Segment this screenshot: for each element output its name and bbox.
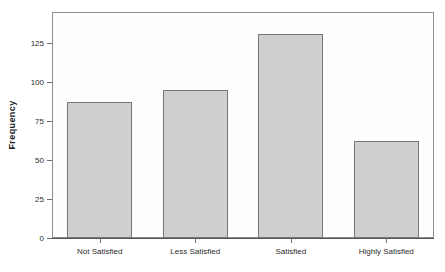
bar: [67, 102, 132, 238]
y-axis-tick-label: 75: [35, 117, 44, 126]
bar: [163, 90, 228, 238]
x-axis-tick-label: Less Satisfied: [170, 247, 220, 256]
y-axis-tick-label: 125: [31, 39, 44, 48]
y-axis-tick-label: 0: [40, 234, 44, 243]
y-axis-tick-mark: [47, 82, 52, 83]
bar-chart-figure: Frequency 0255075100125 Not SatisfiedLes…: [0, 0, 445, 272]
x-axis-tick-mark: [386, 238, 387, 243]
x-axis-tick-mark: [100, 238, 101, 243]
x-axis-tick-mark: [195, 238, 196, 243]
y-axis-tick-label: 100: [31, 78, 44, 87]
y-axis-tick-mark: [47, 199, 52, 200]
y-axis-tick-mark: [47, 43, 52, 44]
y-axis-tick-label: 50: [35, 156, 44, 165]
x-axis-baseline: [52, 238, 434, 239]
x-axis-tick-label: Satisfied: [275, 247, 306, 256]
y-axis: 0255075100125: [0, 0, 52, 272]
y-axis-tick-label: 25: [35, 195, 44, 204]
x-axis-tick-mark: [291, 238, 292, 243]
x-axis-tick-label: Highly Satisfied: [359, 247, 414, 256]
y-axis-tick-mark: [47, 121, 52, 122]
bar: [258, 34, 323, 238]
y-axis-tick-mark: [47, 160, 52, 161]
bar: [354, 141, 419, 238]
x-axis-tick-label: Not Satisfied: [77, 247, 122, 256]
